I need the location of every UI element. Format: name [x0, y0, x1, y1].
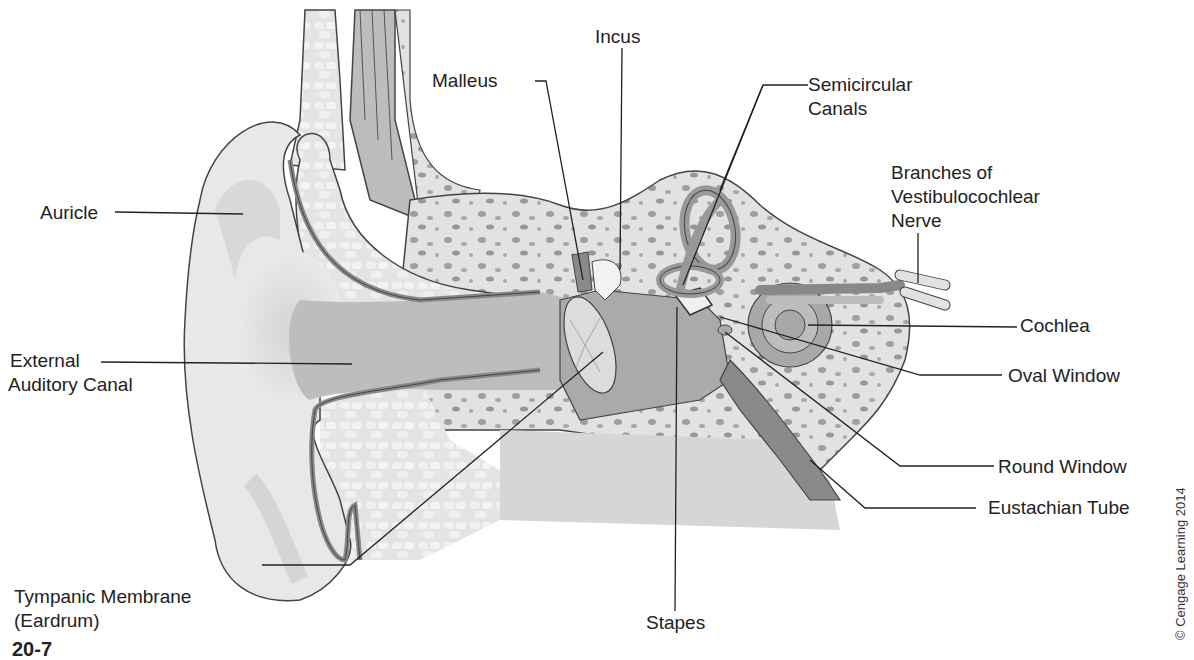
label-semicircular-canals-line1: Semicircular — [808, 74, 913, 96]
label-malleus: Malleus — [432, 70, 497, 92]
label-nerve-line2: Vestibulocochlear — [891, 186, 1040, 208]
label-nerve-line3: Nerve — [891, 210, 942, 232]
round-window-shape — [718, 325, 732, 335]
label-tympanic-membrane-line2: (Eardrum) — [14, 610, 100, 632]
label-eustachian-tube: Eustachian Tube — [988, 497, 1130, 519]
label-oval-window: Oval Window — [1008, 365, 1120, 387]
label-external-auditory-canal-line2: Auditory Canal — [8, 374, 133, 396]
label-nerve-line1: Branches of — [891, 162, 992, 184]
label-auricle: Auricle — [40, 202, 98, 224]
leader-semicircular-b — [720, 85, 763, 190]
label-stapes: Stapes — [646, 612, 705, 634]
label-cochlea: Cochlea — [1020, 315, 1090, 337]
label-tympanic-membrane-line1: Tympanic Membrane — [14, 586, 191, 608]
label-incus: Incus — [595, 26, 640, 48]
copyright-credit: © Cengage Learning 2014 — [1173, 487, 1188, 640]
leader-eustachian-tube — [810, 460, 976, 508]
label-external-auditory-canal-line1: External — [10, 350, 80, 372]
label-round-window: Round Window — [998, 456, 1127, 478]
label-semicircular-canals-line2: Canals — [808, 98, 867, 120]
figure-number: 20-7 — [12, 638, 52, 660]
external-auditory-canal — [289, 292, 600, 400]
